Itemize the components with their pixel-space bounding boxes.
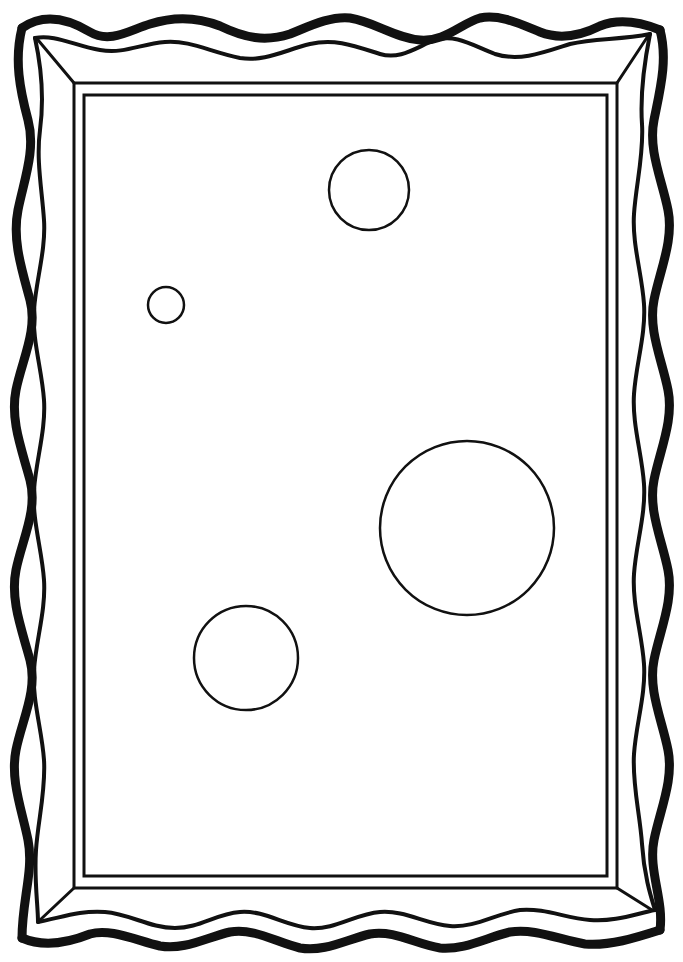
coloring-page-canvas xyxy=(0,0,683,962)
frame-outer-rectangle xyxy=(74,83,617,888)
picture-frame-drawing xyxy=(0,0,683,962)
circles-group xyxy=(148,150,554,710)
top-circle xyxy=(329,150,409,230)
lower-left-circle xyxy=(194,606,298,710)
small-circle xyxy=(148,287,184,323)
frame-inner-rectangle xyxy=(84,95,607,876)
large-circle xyxy=(380,441,554,615)
wavy-frame-border xyxy=(14,17,669,949)
